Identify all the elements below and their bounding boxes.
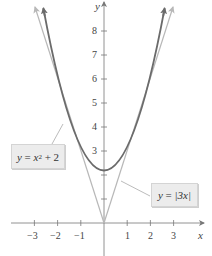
parabola-leader-line [52,124,63,144]
y-tick-label-7: 7 [92,50,97,60]
function-graph [0,0,212,256]
y-tick-label-5: 5 [92,98,97,108]
parabola-suffix: + 2 [42,151,59,163]
y-tick-label-3: 3 [92,146,97,156]
x-tick-label-3: 3 [171,231,176,241]
abs-body: |3x| [175,189,191,201]
absolute-equation-label: y = |3x| [151,183,198,207]
x-tick-label-2: 2 [148,231,153,241]
y-tick-label-4: 4 [92,122,97,132]
x-tick-label-neg2: −2 [50,231,61,241]
x-axis-label: x [198,230,203,241]
x-tick-label-neg3: −3 [27,231,38,241]
y-tick-label-8: 8 [92,26,97,36]
parabola-equation-label: y = x2 + 2 [11,144,65,169]
parabola-arrow-left [43,8,45,16]
x-tick-label-neg1: −1 [74,231,85,241]
absolute-leader-line [121,181,150,196]
x-tick-label-1: 1 [125,231,130,241]
parabola-arrow-right [163,8,165,16]
y-axis-label: y [95,1,100,12]
abs-equals: = [163,189,175,201]
y-tick-label-6: 6 [92,74,97,84]
parabola-prefix: y = [17,151,34,163]
